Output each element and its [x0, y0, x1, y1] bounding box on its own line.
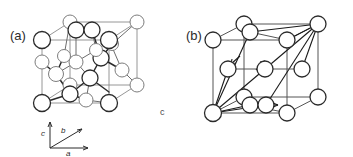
- atom-node: [84, 22, 100, 38]
- panel-b-label: (b): [186, 28, 202, 43]
- atom-node: [58, 50, 71, 63]
- atom-node: [101, 32, 118, 49]
- atom-node: [69, 55, 83, 69]
- atom-node: [205, 105, 222, 122]
- atom-node: [115, 63, 129, 77]
- atom-node: [34, 95, 51, 112]
- atom-node: [279, 32, 295, 48]
- atom-node: [68, 22, 84, 38]
- atom-node: [294, 61, 310, 77]
- atom-node: [220, 61, 236, 77]
- atom-node: [49, 67, 64, 82]
- crystal-structure-figure: (a) c c b a: [0, 0, 353, 157]
- axis-label-a: a: [66, 149, 71, 157]
- atom-node: [242, 97, 258, 113]
- atom-node: [130, 15, 144, 29]
- atom-node: [310, 89, 326, 105]
- atom-node: [82, 70, 98, 86]
- atom-node: [130, 78, 144, 92]
- atom-node: [79, 93, 93, 107]
- atom-node: [257, 61, 273, 77]
- atom-node: [35, 55, 49, 69]
- panel-a-label: (a): [10, 28, 26, 43]
- atom-node: [279, 105, 295, 121]
- axis-label-c: c: [41, 129, 45, 138]
- atom-node: [258, 97, 274, 113]
- atom-node: [205, 32, 221, 48]
- atom-node: [101, 95, 118, 112]
- atom-node: [62, 86, 78, 102]
- atom-node: [90, 44, 103, 57]
- atom-node: [310, 16, 326, 32]
- figure-canvas: (a) c c b a: [0, 0, 353, 157]
- axis-label-b: b: [61, 126, 66, 135]
- atom-node: [242, 24, 258, 40]
- atom-node: [34, 32, 51, 49]
- stray-c-label: c: [160, 107, 165, 117]
